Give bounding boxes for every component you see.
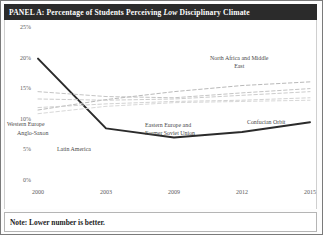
x-axis-tick-label: 2009 <box>159 189 189 195</box>
page-title: PANEL A: Percentage of Students Perceivi… <box>9 8 250 17</box>
y-axis-tick-label: 25% <box>9 24 31 30</box>
y-axis-tick-label: 0% <box>9 177 31 183</box>
y-axis-tick-label: 20% <box>9 55 31 61</box>
chart-canvas <box>5 20 318 209</box>
panel-header: PANEL A: Percentage of Students Perceivi… <box>4 4 317 20</box>
panel-title-prefix: PANEL A: Percentage of Students Perceivi… <box>9 8 164 17</box>
footer-note: Note: Lower number is better. <box>10 218 105 227</box>
x-axis-tick-label: 2012 <box>227 189 257 195</box>
y-axis-tick-label: 5% <box>9 146 31 152</box>
series-label: Western Europe <box>7 121 45 129</box>
series-line <box>38 82 310 110</box>
panel-title-suffix: Disciplinary Climate <box>177 8 249 17</box>
x-axis-tick-label: 2003 <box>91 189 121 195</box>
series-label: Eastern Europe and Former Soviet Union <box>145 122 195 137</box>
y-axis-tick-label: 15% <box>9 85 31 91</box>
plot-area: 0%5%10%15%20%25% 20002003200920122015 We… <box>4 20 317 209</box>
panel-title-emphasis: Low <box>164 8 178 17</box>
series-label: Latin America <box>57 146 91 154</box>
series-line <box>38 89 310 98</box>
series-line <box>38 100 310 113</box>
figure-panel-a: PANEL A: Percentage of Students Perceivi… <box>0 0 323 235</box>
footer-note-bar: Note: Lower number is better. <box>4 212 317 232</box>
x-axis-tick-label: 2000 <box>23 189 53 195</box>
series-label: Anglo-Saxon <box>17 130 48 138</box>
x-axis-tick-label: 2015 <box>295 189 323 195</box>
series-label: Confucian Orbit <box>247 119 285 127</box>
series-label: North Africa and Middle East <box>210 55 268 70</box>
